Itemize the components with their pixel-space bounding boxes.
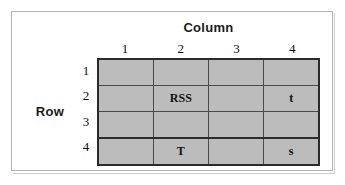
cell-r2c1[interactable]	[98, 86, 153, 112]
row-axis-label: Row	[20, 104, 80, 119]
cell-r4c2[interactable]: T	[153, 138, 208, 165]
table-row	[98, 112, 319, 139]
cell-r4c1[interactable]	[98, 138, 153, 165]
cell-r2c2-text: RSS	[154, 86, 208, 111]
cell-r4c4-text: s	[264, 139, 318, 164]
column-header-1: 1	[97, 41, 153, 57]
cell-r2c2[interactable]: RSS	[153, 86, 208, 112]
column-header-3: 3	[209, 41, 265, 57]
column-header-4: 4	[264, 41, 320, 57]
cell-r3c1[interactable]	[98, 112, 153, 139]
table-row: T s	[98, 138, 319, 165]
matrix-grid: RSS t T s	[97, 58, 320, 166]
row-header-3: 3	[78, 109, 94, 135]
cell-r1c1[interactable]	[98, 59, 153, 86]
cell-r2c3[interactable]	[209, 86, 264, 112]
cell-r1c3[interactable]	[209, 59, 264, 86]
figure-frame-shadow-right	[334, 13, 335, 173]
row-header-2: 2	[78, 84, 94, 110]
cell-r4c2-text: T	[154, 139, 208, 164]
column-header-2: 2	[153, 41, 209, 57]
cell-r4c3[interactable]	[209, 138, 264, 165]
cell-r3c3[interactable]	[209, 112, 264, 139]
cell-r1c2[interactable]	[153, 59, 208, 86]
cell-r3c4[interactable]	[264, 112, 319, 139]
column-header-row: 1 2 3 4	[97, 41, 320, 57]
figure-root: Column Row 1 2 3 4 1 2 3 4 RSS t	[0, 0, 345, 185]
figure-frame-shadow-bottom	[13, 173, 335, 174]
cell-r3c2[interactable]	[153, 112, 208, 139]
table-row	[98, 59, 319, 86]
row-header-column: 1 2 3 4	[78, 58, 94, 160]
cell-r2c4[interactable]: t	[264, 86, 319, 112]
cell-r1c4[interactable]	[264, 59, 319, 86]
row-header-1: 1	[78, 58, 94, 84]
row-header-4: 4	[78, 135, 94, 161]
column-axis-label: Column	[97, 20, 320, 35]
cell-r2c4-text: t	[264, 86, 318, 111]
table-row: RSS t	[98, 86, 319, 112]
cell-r4c4[interactable]: s	[264, 138, 319, 165]
